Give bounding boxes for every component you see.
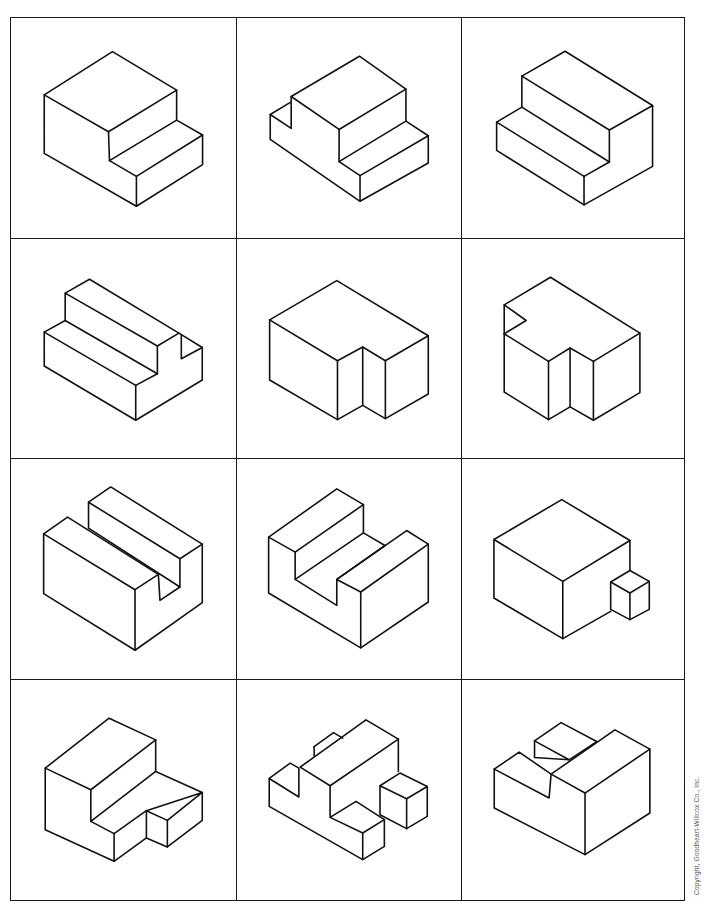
- isometric-block-drawing: [11, 459, 237, 680]
- figure-cell-9: [461, 458, 685, 681]
- figure-cell-5: [236, 238, 463, 460]
- isometric-block-drawing: [462, 459, 684, 680]
- figure-cell-7: [10, 458, 238, 681]
- worksheet-grid: [10, 17, 683, 899]
- isometric-block-drawing: [11, 680, 237, 900]
- isometric-block-drawing: [462, 239, 684, 459]
- figure-cell-2: [236, 17, 463, 240]
- figure-cell-4: [10, 238, 238, 460]
- isometric-block-drawing: [237, 459, 462, 680]
- figure-cell-8: [236, 458, 463, 681]
- isometric-block-drawing: [11, 239, 237, 459]
- figure-cell-6: [461, 238, 685, 460]
- copyright-notice: Copyright, Goodheart-Willcox Co., Inc.: [693, 776, 700, 895]
- figure-cell-11: [236, 679, 463, 901]
- figure-cell-1: [10, 17, 238, 240]
- isometric-block-drawing: [462, 680, 684, 900]
- figure-cell-10: [10, 679, 238, 901]
- isometric-block-drawing: [462, 18, 684, 239]
- isometric-block-drawing: [237, 239, 462, 459]
- isometric-block-drawing: [237, 680, 462, 900]
- figure-cell-12: [461, 679, 685, 901]
- isometric-block-drawing: [11, 18, 237, 239]
- isometric-block-drawing: [237, 18, 462, 239]
- figure-cell-3: [461, 17, 685, 240]
